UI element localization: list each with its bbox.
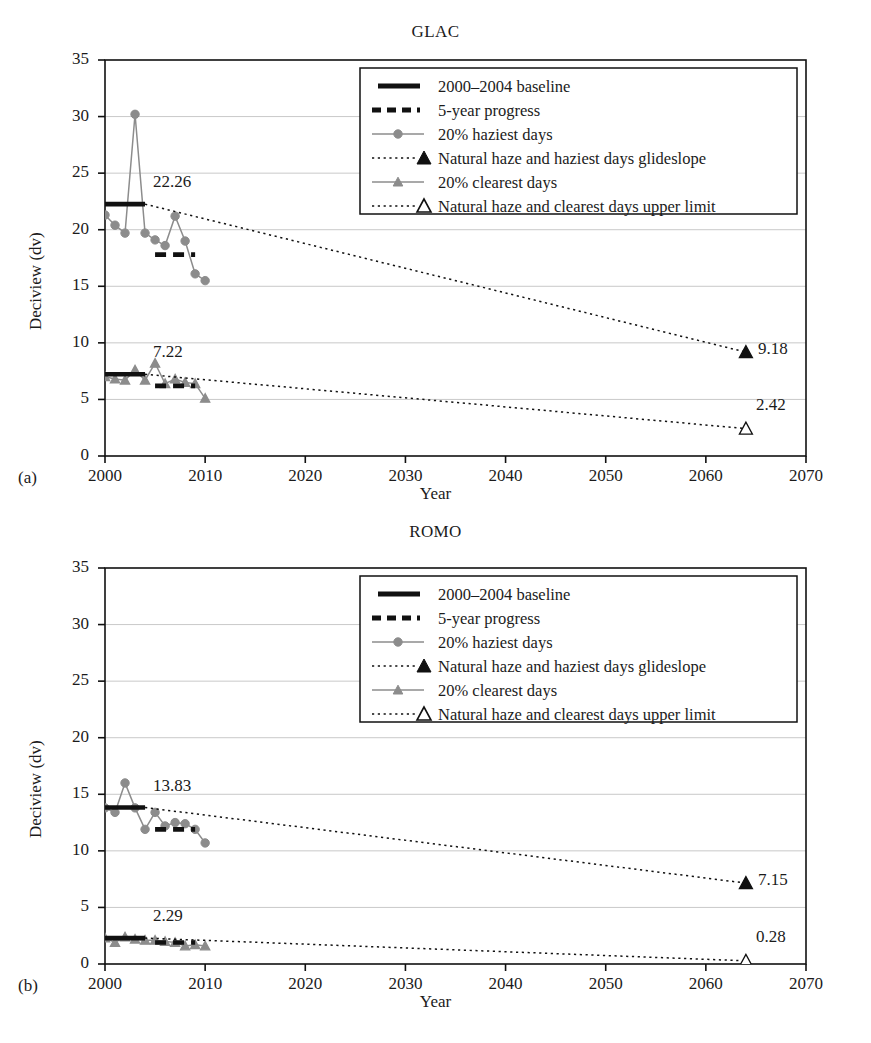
data-value-label: 2.42 bbox=[756, 395, 786, 415]
xtick-label: 2050 bbox=[576, 466, 636, 486]
xtick-label: 2050 bbox=[576, 974, 636, 994]
legend-item-label: 2000–2004 baseline bbox=[438, 585, 570, 604]
ytick-label: 30 bbox=[49, 614, 89, 634]
xtick-label: 2060 bbox=[676, 466, 736, 486]
data-value-label: 7.15 bbox=[758, 870, 788, 890]
xtick-label: 2010 bbox=[175, 466, 235, 486]
xtick-label: 2040 bbox=[476, 974, 536, 994]
panel-a-glac: GLAC (a) Year Deciview (dv) 2000–2004 ba… bbox=[0, 0, 871, 515]
legend-item-label: Natural haze and haziest days glideslope bbox=[438, 149, 706, 168]
xtick-label: 2060 bbox=[676, 974, 736, 994]
ytick-label: 5 bbox=[49, 388, 89, 408]
legend-item-label: Natural haze and clearest days upper lim… bbox=[438, 197, 716, 216]
xtick-label: 2070 bbox=[776, 466, 836, 486]
ytick-label: 10 bbox=[49, 840, 89, 860]
ytick-label: 15 bbox=[49, 275, 89, 295]
panel-a-plot: 2000–2004 baseline5-year progress20% haz… bbox=[0, 0, 871, 515]
ytick-label: 30 bbox=[49, 106, 89, 126]
xtick-label: 2000 bbox=[75, 466, 135, 486]
legend-item-label: 5-year progress bbox=[438, 101, 540, 120]
legend-item-label: 20% haziest days bbox=[438, 633, 553, 652]
legend-item-label: Natural haze and haziest days glideslope bbox=[438, 657, 706, 676]
ytick-label: 20 bbox=[49, 219, 89, 239]
legend-item-label: 2000–2004 baseline bbox=[438, 77, 570, 96]
panel-b-romo: ROMO (b) Year Deciview (dv) 2000–2004 ba… bbox=[0, 500, 871, 1043]
ytick-label: 25 bbox=[49, 162, 89, 182]
ytick-label: 0 bbox=[49, 445, 89, 465]
legend-item-label: 20% clearest days bbox=[438, 173, 557, 192]
ytick-label: 35 bbox=[49, 49, 89, 69]
data-value-label: 9.18 bbox=[758, 339, 788, 359]
ytick-label: 20 bbox=[49, 727, 89, 747]
ytick-label: 35 bbox=[49, 557, 89, 577]
ytick-label: 0 bbox=[49, 953, 89, 973]
xtick-label: 2020 bbox=[275, 974, 335, 994]
panel-b-plot: 2000–2004 baseline5-year progress20% haz… bbox=[0, 500, 871, 1043]
data-value-label: 13.83 bbox=[153, 776, 191, 796]
xtick-label: 2030 bbox=[375, 466, 435, 486]
xtick-label: 2070 bbox=[776, 974, 836, 994]
xtick-label: 2040 bbox=[476, 466, 536, 486]
xtick-label: 2020 bbox=[275, 466, 335, 486]
xtick-label: 2010 bbox=[175, 974, 235, 994]
ytick-label: 15 bbox=[49, 783, 89, 803]
data-value-label: 7.22 bbox=[153, 342, 183, 362]
xtick-label: 2030 bbox=[375, 974, 435, 994]
legend-item-label: 5-year progress bbox=[438, 609, 540, 628]
xtick-label: 2000 bbox=[75, 974, 135, 994]
ytick-label: 5 bbox=[49, 896, 89, 916]
legend-item-label: 20% clearest days bbox=[438, 681, 557, 700]
data-value-label: 2.29 bbox=[153, 906, 183, 926]
ytick-label: 10 bbox=[49, 332, 89, 352]
data-value-label: 22.26 bbox=[153, 172, 191, 192]
data-value-label: 0.28 bbox=[756, 927, 786, 947]
legend-item-label: 20% haziest days bbox=[438, 125, 553, 144]
figure-two-panel-deciview-trends: GLAC (a) Year Deciview (dv) 2000–2004 ba… bbox=[0, 0, 871, 1043]
legend-item-label: Natural haze and clearest days upper lim… bbox=[438, 705, 716, 724]
ytick-label: 25 bbox=[49, 670, 89, 690]
